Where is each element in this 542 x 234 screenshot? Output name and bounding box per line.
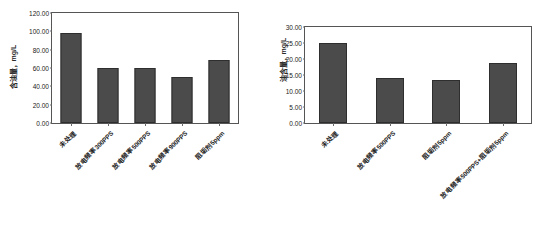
y-axis-tick-mark: [50, 31, 52, 32]
y-axis-tick-mark: [50, 104, 52, 105]
bar-chart-oil-content-scale-inhibitor: 油含量，mg/L 未处理放电频率500PPS阻垢剂5ppm放电频率500PPS+…: [271, 0, 542, 234]
bar: [172, 77, 193, 123]
bar: [432, 80, 460, 123]
x-axis-tick-label: 未处理: [319, 128, 341, 150]
y-axis-tick-mark: [303, 107, 305, 108]
bar-slot: 放电频率300PPS: [89, 13, 126, 123]
figure-page: 含油量，mg/L 未处理放电频率300PPS放电频率500PPS放电频率900P…: [0, 0, 542, 234]
y-axis-tick-mark: [50, 13, 52, 14]
bar-slot: 放电频率900PPS: [164, 13, 201, 123]
y-axis-tick-mark: [303, 91, 305, 92]
bar: [376, 78, 404, 123]
x-axis-tick-mark: [390, 123, 391, 126]
bar: [134, 68, 155, 123]
bar-slot: 未处理: [52, 13, 89, 123]
x-axis-tick-label: 阻垢剂5ppm: [193, 128, 227, 162]
x-axis-tick-label: 放电频率500PPS: [109, 128, 152, 171]
x-axis-tick-label: 未处理: [56, 128, 78, 150]
y-axis-tick-mark: [50, 49, 52, 50]
plot-area: 未处理放电频率500PPS阻垢剂5ppm放电频率500PPS+阻垢剂5ppm 0…: [304, 26, 532, 124]
x-axis-tick-mark: [182, 123, 183, 126]
y-axis-tick-mark: [303, 27, 305, 28]
bar: [319, 43, 347, 123]
bar: [209, 60, 230, 123]
x-axis-tick-mark: [108, 123, 109, 126]
x-axis-tick-mark: [219, 123, 220, 126]
bar-slot: 放电频率500PPS+阻垢剂5ppm: [475, 27, 532, 123]
x-axis-tick-label: 阻垢剂5ppm: [420, 128, 454, 162]
y-axis-tick-label: 100.00: [29, 28, 52, 35]
x-axis-tick-mark: [333, 123, 334, 126]
x-axis-tick-mark: [145, 123, 146, 126]
bars-group: 未处理放电频率500PPS阻垢剂5ppm放电频率500PPS+阻垢剂5ppm: [305, 27, 531, 123]
y-axis-tick-mark: [50, 68, 52, 69]
bar: [60, 33, 81, 123]
y-axis-tick-mark: [50, 86, 52, 87]
bars-group: 未处理放电频率300PPS放电频率500PPS放电频率900PPS阻垢剂5ppm: [52, 13, 238, 123]
bar-slot: 未处理: [305, 27, 362, 123]
y-axis-tick-label: 120.00: [29, 10, 52, 17]
y-axis-tick-mark: [303, 75, 305, 76]
bar-chart-oil-content-discharge-frequency: 含油量，mg/L 未处理放电频率300PPS放电频率500PPS放电频率900P…: [0, 0, 271, 234]
bar-slot: 放电频率500PPS: [362, 27, 419, 123]
bar-slot: 放电频率500PPS: [126, 13, 163, 123]
y-axis-title: 含油量，mg/L: [8, 32, 18, 102]
bar: [97, 68, 118, 123]
bar-slot: 阻垢剂5ppm: [418, 27, 475, 123]
x-axis-tick-mark: [446, 123, 447, 126]
y-axis-tick-mark: [50, 123, 52, 124]
y-axis-tick-mark: [303, 43, 305, 44]
bar-slot: 阻垢剂5ppm: [201, 13, 238, 123]
x-axis-tick-label: 放电频率900PPS: [146, 128, 189, 171]
x-axis-tick-mark: [503, 123, 504, 126]
bar: [489, 63, 517, 123]
plot-area: 未处理放电频率300PPS放电频率500PPS放电频率900PPS阻垢剂5ppm…: [51, 12, 239, 124]
x-axis-tick-label: 放电频率500PPS: [354, 128, 397, 171]
y-axis-tick-mark: [303, 123, 305, 124]
y-axis-tick-mark: [303, 59, 305, 60]
x-axis-tick-mark: [71, 123, 72, 126]
